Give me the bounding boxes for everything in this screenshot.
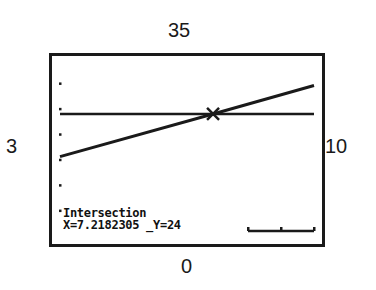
window-ymin-label: 0 [181,256,192,276]
x-readout: X=7.2182305 [63,218,139,232]
y-tick-mark [59,210,62,213]
window-xmax-label: 10 [325,136,347,156]
y-tick-mark [59,133,62,136]
rising-line [60,85,314,156]
window-ymax-label: 35 [168,20,190,40]
y-tick-mark [59,108,62,111]
x-tick-mark [280,227,283,231]
calculator-screen: Intersection X=7.2182305 _Y=24 [49,53,325,247]
x-tick-mark [313,227,316,231]
y-readout: Y=24 [153,218,181,232]
y-tick-mark [59,184,62,187]
window-xmin-label: 3 [6,136,17,156]
intersection-readout: X=7.2182305 _Y=24 [63,219,181,231]
x-tick-mark [247,227,250,231]
y-tick-mark [59,82,62,85]
y-tick-mark [59,159,62,162]
cursor-underscore: _ [146,218,153,232]
